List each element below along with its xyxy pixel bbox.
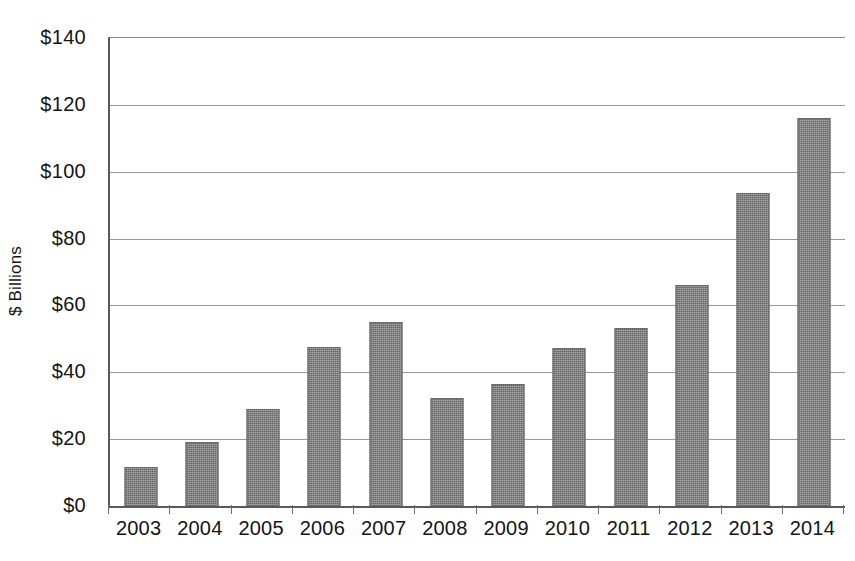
bar-slot — [478, 38, 539, 506]
bar[interactable] — [124, 467, 157, 506]
x-axis-tick-label: 2005 — [226, 517, 296, 540]
x-axis-tick — [292, 505, 293, 514]
bar[interactable] — [492, 384, 525, 506]
x-axis-tick — [414, 505, 415, 514]
bar-slot — [661, 38, 722, 506]
x-axis-tick-label: 2011 — [594, 517, 664, 540]
bar[interactable] — [614, 328, 647, 506]
bar-slot — [416, 38, 477, 506]
y-axis-tick-label: $20 — [0, 427, 96, 450]
x-axis-tick — [598, 505, 599, 514]
x-axis-tick — [108, 505, 109, 514]
plot-area — [108, 37, 845, 508]
bar-slot — [539, 38, 600, 506]
bar[interactable] — [185, 442, 218, 506]
y-axis-tick-label: $140 — [0, 26, 96, 49]
bar[interactable] — [369, 322, 402, 506]
bar-chart: $ Billions $140$120$100$80$60$40$20$0 20… — [0, 0, 855, 561]
y-axis-tick-label: $80 — [0, 226, 96, 249]
x-axis-tick — [659, 505, 660, 514]
x-axis-tick-label: 2006 — [287, 517, 357, 540]
x-axis-tick — [721, 505, 722, 514]
bar[interactable] — [553, 348, 586, 506]
x-axis-tick-label: 2010 — [532, 517, 602, 540]
x-axis-tick — [353, 505, 354, 514]
bar[interactable] — [247, 409, 280, 506]
y-axis-tick-label: $120 — [0, 92, 96, 115]
x-axis-tick-label: 2013 — [716, 517, 786, 540]
y-axis-tick-label: $100 — [0, 159, 96, 182]
y-axis-tick-label: $0 — [0, 494, 96, 517]
bar[interactable] — [430, 398, 463, 506]
bar-slot — [355, 38, 416, 506]
bar-slot — [784, 38, 845, 506]
x-axis-tick-label: 2008 — [410, 517, 480, 540]
x-axis-tick — [782, 505, 783, 514]
y-axis-tick-label: $60 — [0, 293, 96, 316]
x-axis-tick-label: 2009 — [471, 517, 541, 540]
bar-slot — [600, 38, 661, 506]
x-axis-tick — [843, 505, 844, 514]
x-axis-tick — [537, 505, 538, 514]
bar-slot — [110, 38, 171, 506]
x-axis-tick-label: 2003 — [104, 517, 174, 540]
x-axis-tick-label: 2004 — [165, 517, 235, 540]
x-axis-tick — [231, 505, 232, 514]
x-axis-tick-label: 2012 — [655, 517, 725, 540]
bar[interactable] — [308, 347, 341, 506]
bar[interactable] — [737, 193, 770, 506]
bar-series — [110, 38, 845, 506]
x-axis-tick — [476, 505, 477, 514]
y-axis-tick-labels: $140$120$100$80$60$40$20$0 — [0, 0, 96, 561]
x-axis-tick-label: 2014 — [777, 517, 847, 540]
y-axis-tick-label: $40 — [0, 360, 96, 383]
bar-slot — [294, 38, 355, 506]
bar[interactable] — [798, 118, 831, 506]
bar-slot — [171, 38, 232, 506]
bar-slot — [233, 38, 294, 506]
x-axis-tick — [169, 505, 170, 514]
bar[interactable] — [675, 285, 708, 506]
bar-slot — [723, 38, 784, 506]
x-axis-tick-label: 2007 — [349, 517, 419, 540]
